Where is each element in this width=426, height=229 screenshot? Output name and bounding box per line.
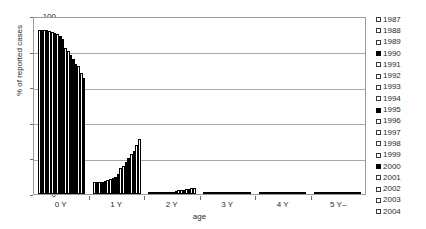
x-tick-label: 0 Y	[55, 200, 67, 209]
legend-swatch-icon	[376, 119, 381, 124]
x-tick-label: 3 Y	[221, 200, 233, 209]
legend-label: 1992	[383, 72, 401, 80]
legend-label: 2002	[383, 185, 401, 193]
legend-swatch-icon	[376, 40, 381, 45]
legend-item[interactable]: 1991	[376, 59, 424, 70]
legend-swatch-icon	[376, 85, 381, 90]
legend: 1987198819891990199119921993199419951996…	[376, 14, 424, 217]
legend-item[interactable]: 2001	[376, 172, 424, 183]
bar	[303, 192, 306, 194]
chart-figure: % of reported cases 020406080100 0 Y1 Y2…	[0, 0, 426, 229]
bar	[193, 188, 196, 194]
x-tick-label: 5 Y–	[330, 200, 346, 209]
legend-item[interactable]: 1988	[376, 25, 424, 36]
x-tick-mark	[255, 196, 256, 200]
legend-item[interactable]: 1989	[376, 37, 424, 48]
legend-swatch-icon	[376, 108, 381, 113]
legend-item[interactable]: 2002	[376, 183, 424, 194]
legend-label: 1995	[383, 106, 401, 114]
legend-swatch-icon	[376, 96, 381, 101]
bar-groups	[34, 18, 365, 194]
x-tick-mark	[200, 196, 201, 200]
legend-item[interactable]: 1987	[376, 14, 424, 25]
bar	[138, 139, 141, 194]
legend-item[interactable]: 1993	[376, 82, 424, 93]
legend-label: 1998	[383, 140, 401, 148]
legend-swatch-icon	[376, 153, 381, 158]
x-tick-mark	[144, 196, 145, 200]
legend-item[interactable]: 2003	[376, 195, 424, 206]
x-tick-label: 2 Y	[166, 200, 178, 209]
bar-group	[144, 18, 199, 194]
legend-swatch-icon	[376, 74, 381, 79]
bar	[83, 78, 86, 194]
legend-item[interactable]: 2004	[376, 206, 424, 217]
legend-label: 1997	[383, 129, 401, 137]
bar-group	[310, 18, 365, 194]
legend-item[interactable]: 2000	[376, 161, 424, 172]
legend-label: 1999	[383, 151, 401, 159]
legend-label: 2003	[383, 196, 401, 204]
legend-label: 1991	[383, 61, 401, 69]
legend-label: 2001	[383, 174, 401, 182]
legend-label: 1993	[383, 83, 401, 91]
legend-swatch-icon	[376, 187, 381, 192]
legend-item[interactable]: 1997	[376, 127, 424, 138]
bar-group	[255, 18, 310, 194]
x-axis-title: age	[33, 212, 366, 221]
x-tick-mark	[311, 196, 312, 200]
bar	[359, 192, 362, 194]
legend-label: 1989	[383, 38, 401, 46]
bar-group	[89, 18, 144, 194]
x-tick-mark	[89, 196, 90, 200]
x-axis: 0 Y1 Y2 Y3 Y4 Y5 Y–	[33, 196, 366, 210]
legend-swatch-icon	[376, 28, 381, 33]
legend-label: 1994	[383, 95, 401, 103]
legend-swatch-icon	[376, 62, 381, 67]
legend-swatch-icon	[376, 209, 381, 214]
bar	[248, 192, 251, 194]
legend-item[interactable]: 1996	[376, 116, 424, 127]
legend-swatch-icon	[376, 51, 381, 56]
legend-item[interactable]: 1994	[376, 93, 424, 104]
legend-swatch-icon	[376, 130, 381, 135]
x-tick-label: 4 Y	[277, 200, 289, 209]
legend-swatch-icon	[376, 17, 381, 22]
x-tick-label: 1 Y	[110, 200, 122, 209]
plot-area	[33, 17, 366, 195]
y-axis-title: % of reported cases	[15, 6, 24, 116]
legend-swatch-icon	[376, 164, 381, 169]
bar-group	[34, 18, 89, 194]
legend-swatch-icon	[376, 141, 381, 146]
legend-swatch-icon	[376, 198, 381, 203]
bar-group	[200, 18, 255, 194]
legend-item[interactable]: 1995	[376, 104, 424, 115]
legend-item[interactable]: 1990	[376, 48, 424, 59]
legend-item[interactable]: 1998	[376, 138, 424, 149]
legend-label: 1988	[383, 27, 401, 35]
legend-item[interactable]: 1999	[376, 150, 424, 161]
legend-label: 1990	[383, 50, 401, 58]
legend-swatch-icon	[376, 175, 381, 180]
legend-item[interactable]: 1992	[376, 70, 424, 81]
legend-label: 2000	[383, 163, 401, 171]
legend-label: 1996	[383, 117, 401, 125]
legend-label: 1987	[383, 16, 401, 24]
legend-label: 2004	[383, 208, 401, 216]
